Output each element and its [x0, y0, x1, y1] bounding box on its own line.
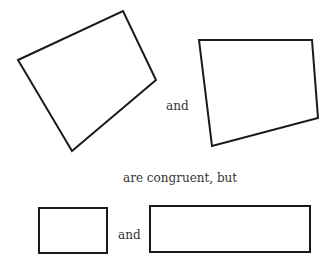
rectangle-small	[39, 208, 107, 253]
rectangle-large	[150, 206, 310, 252]
label-and-top: and	[166, 99, 189, 113]
diagram-canvas	[0, 0, 331, 264]
label-are-congruent: are congruent, but	[123, 171, 237, 185]
quadrilateral-left	[18, 11, 156, 151]
label-and-bottom: and	[118, 228, 141, 242]
quadrilateral-right	[199, 40, 318, 146]
